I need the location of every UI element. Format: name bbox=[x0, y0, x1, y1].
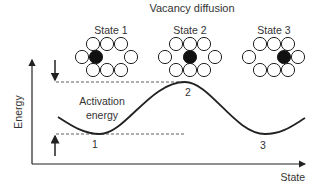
vacancy-diffusion-diagram: Vacancy diffusion State 1 State 2 State … bbox=[0, 0, 323, 186]
state-2-label: State 2 bbox=[173, 24, 206, 36]
y-axis-label: Energy bbox=[12, 95, 24, 129]
x-axis-label: State bbox=[280, 171, 305, 183]
state-2-atom-cluster bbox=[158, 37, 221, 76]
energy-level-guides bbox=[56, 82, 186, 134]
energy-curve bbox=[58, 82, 305, 134]
state-1-atom-cluster bbox=[75, 37, 137, 76]
state-3-label: State 3 bbox=[257, 24, 290, 36]
point-3-label: 3 bbox=[260, 139, 266, 151]
diffusing-atom-icon bbox=[277, 50, 290, 63]
diffusing-atom-icon bbox=[89, 50, 102, 63]
state-1-label: State 1 bbox=[94, 24, 127, 36]
activation-energy-label-line2: energy bbox=[86, 109, 119, 121]
point-1-label: 1 bbox=[92, 138, 98, 150]
point-2-label: 2 bbox=[185, 86, 191, 98]
state-3-atom-cluster bbox=[242, 37, 304, 76]
diagram-title: Vacancy diffusion bbox=[149, 2, 234, 14]
diffusing-atom-icon bbox=[183, 50, 196, 63]
activation-energy-label-line1: Activation bbox=[79, 95, 125, 107]
